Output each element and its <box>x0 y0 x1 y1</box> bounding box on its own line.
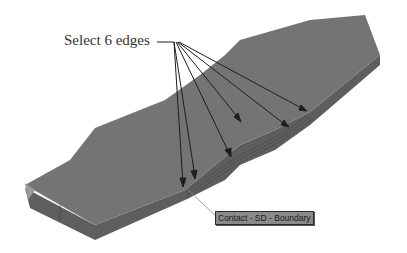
tooltip-leader-line <box>188 190 216 216</box>
callout-select-edges-label: Select 6 edges <box>64 32 150 49</box>
cad-viewport[interactable] <box>0 0 407 253</box>
contact-boundary-tooltip: Contact - SD - Boundary <box>215 211 314 225</box>
